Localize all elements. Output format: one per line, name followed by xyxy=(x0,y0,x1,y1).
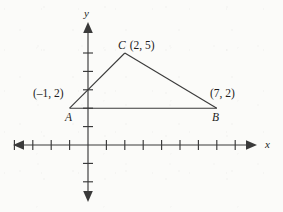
vertex-c-label: C xyxy=(118,39,126,51)
triangle-abc xyxy=(70,53,217,108)
triangle-side-ac xyxy=(70,53,125,108)
vertex-a-label: A xyxy=(65,112,72,124)
coordinate-plot-svg xyxy=(0,0,283,212)
y-axis-group xyxy=(83,22,93,202)
triangle-side-cb xyxy=(125,53,217,108)
coordinate-plane-figure: y x C(2, 5) (–1, 2) A (7, 2) B xyxy=(0,0,283,212)
y-axis-down-arrowhead xyxy=(83,191,93,202)
y-axis-label: y xyxy=(84,8,89,19)
x-axis-label: x xyxy=(265,139,270,150)
x-axis-right-arrowhead xyxy=(246,140,257,150)
vertex-b-label: B xyxy=(212,112,219,124)
vertex-c-coord: (2, 5) xyxy=(130,39,155,51)
vertex-b-coord: (7, 2) xyxy=(210,88,235,100)
vertex-c-group: C(2, 5) xyxy=(118,40,155,52)
vertex-a-coord: (–1, 2) xyxy=(33,88,64,100)
y-axis-up-arrowhead xyxy=(83,22,93,33)
x-axis-group xyxy=(13,140,257,150)
